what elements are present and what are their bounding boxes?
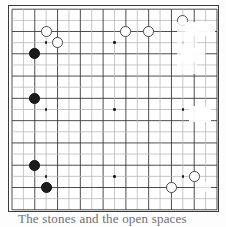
- white-stone-o3[interactable]: [166, 182, 177, 193]
- go-diagram-page: The stones and the open spaces: [0, 0, 226, 227]
- white-stone-e16[interactable]: [52, 37, 63, 48]
- star-point: [182, 108, 185, 111]
- white-stone-q4[interactable]: [189, 171, 200, 182]
- black-stone-d3[interactable]: [41, 182, 52, 193]
- go-board[interactable]: [8, 5, 219, 212]
- black-stone-c5[interactable]: [29, 160, 40, 171]
- star-point: [113, 108, 116, 111]
- star-point: [182, 41, 185, 44]
- star-point: [113, 41, 116, 44]
- star-point: [113, 175, 116, 178]
- caption: The stones and the open spaces: [0, 213, 226, 227]
- white-stone-p18[interactable]: [177, 15, 188, 26]
- caption-text: The stones and the open spaces: [18, 213, 187, 227]
- white-stone-m17[interactable]: [143, 26, 154, 37]
- white-stone-d17[interactable]: [41, 26, 52, 37]
- star-point: [182, 175, 185, 178]
- black-stone-c11[interactable]: [29, 93, 40, 104]
